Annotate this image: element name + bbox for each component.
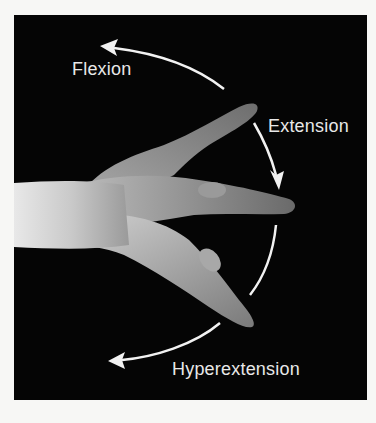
range-arc xyxy=(250,225,276,295)
hyperextension-label: Hyperextension xyxy=(172,359,300,380)
flexion-label: Flexion xyxy=(72,59,131,80)
extension-label: Extension xyxy=(268,116,349,137)
hand-illustration xyxy=(14,15,367,400)
figure-panel: Flexion Extension Hyperextension xyxy=(14,15,367,400)
forearm xyxy=(14,181,129,249)
